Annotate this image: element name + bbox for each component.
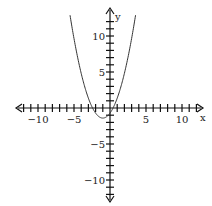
coordinate-plane: −10−5510105−5−10 x y: [0, 0, 212, 206]
x-tick-label: −10: [27, 114, 48, 125]
x-axis-label: x: [200, 112, 206, 123]
y-axis-label: y: [114, 11, 121, 22]
y-tick-label: 10: [92, 31, 105, 42]
y-tick-label: −5: [90, 139, 105, 150]
y-tick-label: −10: [84, 175, 105, 186]
x-tick-label: 5: [143, 114, 149, 125]
x-tick-label: −5: [67, 114, 82, 125]
y-tick-label: 5: [99, 67, 105, 78]
x-tick-label: 10: [176, 114, 189, 125]
